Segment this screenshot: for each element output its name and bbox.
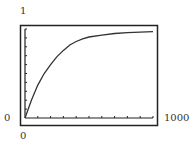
data-curve bbox=[25, 32, 153, 118]
plot-frame bbox=[21, 26, 158, 126]
x-min-label: 0 bbox=[20, 131, 26, 141]
plot-area bbox=[0, 0, 195, 151]
y-max-label: 1 bbox=[20, 6, 26, 16]
x-max-label: 1000 bbox=[164, 113, 189, 123]
y-min-label: 0 bbox=[4, 113, 10, 123]
